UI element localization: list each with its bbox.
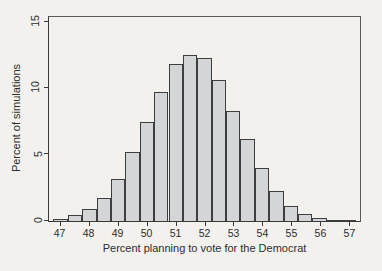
histogram-bar — [53, 219, 67, 221]
x-tick-mark — [262, 222, 263, 226]
y-tick-mark — [44, 220, 48, 221]
histogram-bar — [140, 122, 154, 222]
histogram-bar — [240, 139, 254, 221]
histogram-figure: 4748495051525354555657 051015 Percent pl… — [0, 0, 382, 271]
x-tick-mark — [118, 222, 119, 226]
histogram-bar — [255, 168, 269, 221]
x-tick-mark — [320, 222, 321, 226]
x-tick-label: 53 — [228, 227, 240, 239]
histogram-bar — [298, 214, 312, 221]
x-tick-label: 55 — [286, 227, 298, 239]
histogram-bar — [82, 209, 96, 221]
y-axis-label: Percent of simulations — [10, 38, 22, 198]
x-tick-label: 52 — [199, 227, 211, 239]
bars-container — [49, 17, 360, 221]
histogram-bar — [183, 55, 197, 221]
x-tick-label: 54 — [257, 227, 269, 239]
histogram-bar — [197, 58, 211, 221]
histogram-bar — [125, 152, 139, 221]
x-tick-label: 56 — [315, 227, 327, 239]
histogram-bar — [154, 92, 168, 221]
plot-area — [48, 16, 361, 222]
x-axis-ticks: 4748495051525354555657 — [48, 222, 361, 242]
histogram-bar — [212, 80, 226, 221]
histogram-bar — [68, 215, 82, 221]
x-tick-mark — [205, 222, 206, 226]
x-tick-label: 50 — [141, 227, 153, 239]
y-tick-label: 10 — [29, 81, 41, 93]
y-axis-ticks: 051015 — [28, 16, 48, 222]
x-tick-mark — [60, 222, 61, 226]
x-tick-mark — [176, 222, 177, 226]
histogram-bar — [312, 218, 326, 221]
y-tick-label: 0 — [32, 217, 44, 223]
y-tick-mark — [44, 153, 48, 154]
histogram-bar — [169, 64, 183, 221]
x-axis-label: Percent planning to vote for the Democra… — [48, 242, 361, 254]
histogram-bar — [111, 179, 125, 221]
x-tick-mark — [233, 222, 234, 226]
histogram-bar — [327, 220, 341, 221]
histogram-bar — [284, 206, 298, 221]
x-tick-label: 49 — [112, 227, 124, 239]
x-tick-mark — [291, 222, 292, 226]
x-tick-label: 51 — [170, 227, 182, 239]
histogram-bar — [341, 220, 355, 221]
x-tick-mark — [349, 222, 350, 226]
x-tick-mark — [147, 222, 148, 226]
y-tick-mark — [44, 21, 48, 22]
y-tick-label: 5 — [32, 151, 44, 157]
x-tick-label: 57 — [344, 227, 356, 239]
histogram-bar — [97, 198, 111, 221]
x-tick-mark — [89, 222, 90, 226]
x-tick-label: 47 — [54, 227, 66, 239]
y-tick-label: 15 — [29, 15, 41, 27]
histogram-bar — [269, 191, 283, 222]
histogram-bar — [226, 111, 240, 221]
x-tick-label: 48 — [83, 227, 95, 239]
y-tick-mark — [44, 87, 48, 88]
